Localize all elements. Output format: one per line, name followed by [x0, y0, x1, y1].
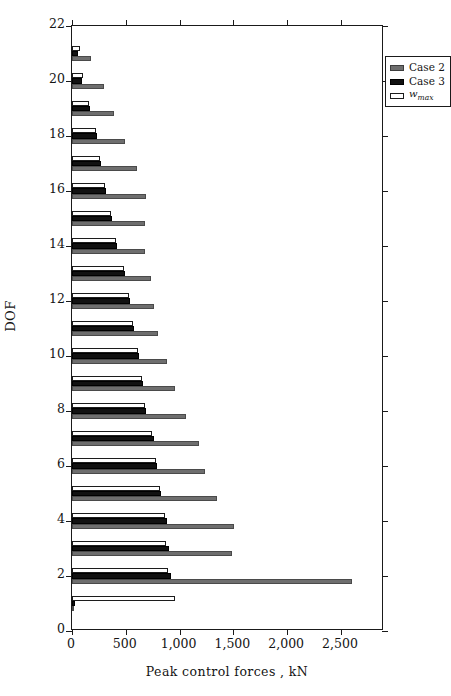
gray-filled-swatch-icon [390, 65, 404, 71]
y-axis-tick [66, 26, 72, 27]
bar [72, 166, 137, 171]
x-axis-tick [287, 629, 288, 635]
y-axis-tick-label: 10 [49, 348, 65, 361]
x-axis-tick [341, 629, 342, 635]
bar [72, 551, 232, 556]
y-axis-tick [66, 466, 72, 467]
legend-label-case-3: Case 3 [409, 76, 445, 87]
bars-layer [72, 26, 382, 629]
bar [72, 304, 154, 309]
x-axis-tick-label: 1,000 [161, 636, 197, 651]
x-axis-tick-top [126, 20, 127, 26]
x-axis-tick-top [341, 20, 342, 26]
bar [72, 524, 234, 529]
x-axis-tick-top [180, 20, 181, 26]
y-axis-tick-label: 6 [57, 458, 65, 471]
y-axis-tick-right [382, 246, 388, 247]
bar [72, 276, 151, 281]
bar [72, 139, 125, 144]
white-open-swatch-icon [390, 93, 404, 99]
bar [72, 221, 145, 226]
y-axis-tick-right [382, 136, 388, 137]
y-axis-tick-label: 2 [57, 568, 65, 581]
x-axis-tick-label: 0 [67, 636, 75, 651]
legend-label-case-2: Case 2 [409, 62, 445, 73]
x-axis-tick-label: 500 [113, 636, 137, 651]
bar [72, 441, 199, 446]
legend: Case 2 Case 3 wmax [385, 56, 451, 107]
y-axis-tick-right [382, 301, 388, 302]
legend-label-wmax: wmax [409, 89, 433, 102]
y-axis-tick-right [382, 26, 388, 27]
y-axis-tick-right [382, 191, 388, 192]
bar [72, 249, 145, 254]
bar [72, 579, 352, 584]
y-axis-tick-label: 8 [57, 403, 65, 416]
x-axis-tick [233, 629, 234, 635]
y-axis-tick-label: 12 [49, 293, 65, 306]
y-axis-tick [66, 246, 72, 247]
bar [72, 469, 205, 474]
black-filled-swatch-icon [390, 79, 404, 85]
x-axis-tick [180, 629, 181, 635]
y-axis-tick [66, 136, 72, 137]
x-axis-tick-label: 2,000 [268, 636, 304, 651]
y-axis-tick-label: 22 [49, 18, 65, 31]
y-axis-tick-label: 16 [49, 183, 65, 196]
y-axis-title: DOF [3, 300, 18, 332]
legend-item-wmax: wmax [390, 89, 446, 102]
bar [72, 359, 167, 364]
y-axis-tick [66, 411, 72, 412]
y-axis-tick-label: 14 [49, 238, 65, 251]
x-axis-tick-label: 1,500 [214, 636, 250, 651]
legend-label-wmax-base: w [409, 88, 418, 99]
x-axis-tick [72, 629, 73, 635]
y-axis-tick [66, 356, 72, 357]
y-axis-tick-right [382, 356, 388, 357]
x-axis-tick-top [287, 20, 288, 26]
x-axis-tick-top [233, 20, 234, 26]
bar [72, 111, 114, 116]
bar [72, 414, 186, 419]
legend-item-case-2: Case 2 [390, 61, 446, 74]
bar [72, 496, 217, 501]
y-axis-tick-label: 4 [57, 513, 65, 526]
x-axis-tick-top [72, 20, 73, 26]
plot-area: Case 2 Case 3 wmax [71, 25, 383, 630]
bar [72, 56, 91, 61]
y-axis-tick [66, 521, 72, 522]
x-axis-tick-label: 2,500 [322, 636, 358, 651]
y-axis-tick [66, 191, 72, 192]
y-axis-tick-label: 20 [49, 73, 65, 86]
y-axis-tick [66, 301, 72, 302]
y-axis-tick-right [382, 466, 388, 467]
y-axis-tick-right [382, 631, 388, 632]
y-axis-tick-right [382, 411, 388, 412]
bar [72, 194, 146, 199]
y-axis-tick-label: 0 [57, 623, 65, 636]
y-axis-tick-right [382, 521, 388, 522]
bar [72, 331, 158, 336]
x-axis-title: Peak control forces , kN [146, 664, 308, 679]
y-axis-tick-right [382, 576, 388, 577]
x-axis-tick [126, 629, 127, 635]
bar [72, 596, 175, 601]
y-axis-tick-label: 18 [49, 128, 65, 141]
bar [72, 606, 74, 611]
bar [72, 386, 175, 391]
legend-label-wmax-sub: max [418, 93, 434, 102]
bar [72, 84, 104, 89]
y-axis-tick [66, 81, 72, 82]
legend-item-case-3: Case 3 [390, 75, 446, 88]
y-axis-tick [66, 576, 72, 577]
